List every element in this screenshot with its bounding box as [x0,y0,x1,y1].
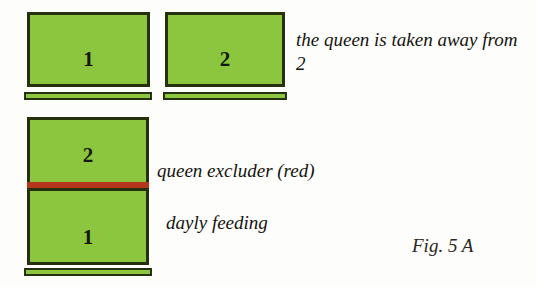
hive-box-top-right: 2 [165,12,285,87]
hive-baseboard-stack [24,268,152,276]
hive-stack-lower: 2 1 [27,117,149,265]
hive-box-label: 1 [83,227,94,262]
hive-box-label: 2 [220,49,231,84]
hive-box-label: 1 [83,49,94,84]
queen-excluder-strip [27,182,149,188]
hive-baseboard-top-right [163,92,287,100]
annotation-dayly-feeding: dayly feeding [166,212,268,234]
hive-baseboard-top-left [24,92,152,100]
hive-stack-lower-box: 1 [27,191,149,265]
annotation-queen-taken-away: the queen is taken away from 2 [296,28,526,76]
hive-box-top-left: 1 [27,12,150,87]
annotation-queen-excluder: queen excluder (red) [157,160,315,182]
figure-diagram: 1 2 the queen is taken away from 2 2 1 q… [0,0,536,287]
hive-stack-upper-box: 2 [27,117,149,191]
figure-caption: Fig. 5 A [412,235,473,257]
